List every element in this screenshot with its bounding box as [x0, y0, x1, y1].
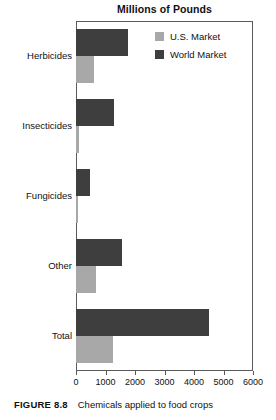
- legend-label: World Market: [170, 49, 226, 60]
- bar-world-market-insecticides: [76, 99, 114, 126]
- bar-world-market-herbicides: [76, 29, 128, 56]
- legend-item: World Market: [155, 49, 255, 60]
- x-tick-label-0: 0: [73, 377, 78, 387]
- x-tick-label-3000: 3000: [154, 377, 174, 387]
- category-label-fungicides: Fungicides: [0, 190, 72, 201]
- plot-area: [76, 21, 253, 371]
- bar-us-market-insecticides: [76, 126, 79, 153]
- bar-world-market-fungicides: [76, 169, 90, 196]
- bar-us-market-fungicides: [76, 196, 78, 223]
- x-tick-mark-0: [76, 371, 77, 375]
- figure-container: Millions of Pounds HerbicidesInsecticide…: [0, 0, 276, 420]
- x-tick-mark-5000: [224, 371, 225, 375]
- x-tick-label-4000: 4000: [184, 377, 204, 387]
- x-tick-mark-4000: [194, 371, 195, 375]
- x-tick-mark-3000: [165, 371, 166, 375]
- x-axis: 0100020003000400050006000: [76, 371, 253, 395]
- chart-title: Millions of Pounds: [76, 3, 253, 15]
- bar-world-market-total: [76, 309, 209, 336]
- category-label-herbicides: Herbicides: [0, 50, 72, 61]
- figure-caption-text: Chemicals applied to food crops: [78, 399, 213, 410]
- legend-item: U.S. Market: [155, 31, 255, 42]
- chart-legend: U.S. MarketWorld Market: [155, 31, 255, 67]
- figure-caption: FIGURE 8.8Chemicals applied to food crop…: [14, 399, 266, 410]
- bar-world-market-other: [76, 239, 122, 266]
- x-tick-label-6000: 6000: [243, 377, 263, 387]
- x-tick-label-5000: 5000: [213, 377, 233, 387]
- bar-us-market-other: [76, 266, 96, 293]
- category-label-other: Other: [0, 260, 72, 271]
- bar-us-market-total: [76, 336, 113, 363]
- x-tick-label-1000: 1000: [95, 377, 115, 387]
- x-tick-mark-2000: [135, 371, 136, 375]
- category-label-insecticides: Insecticides: [0, 120, 72, 131]
- category-label-total: Total: [0, 330, 72, 341]
- x-tick-mark-6000: [253, 371, 254, 375]
- legend-swatch-us-market: [155, 32, 164, 41]
- x-tick-label-2000: 2000: [125, 377, 145, 387]
- bar-us-market-herbicides: [76, 56, 94, 83]
- legend-label: U.S. Market: [170, 31, 220, 42]
- category-axis-labels: HerbicidesInsecticidesFungicidesOtherTot…: [0, 21, 72, 371]
- x-tick-mark-1000: [106, 371, 107, 375]
- legend-swatch-world-market: [155, 50, 164, 59]
- figure-caption-label: FIGURE 8.8: [14, 399, 68, 410]
